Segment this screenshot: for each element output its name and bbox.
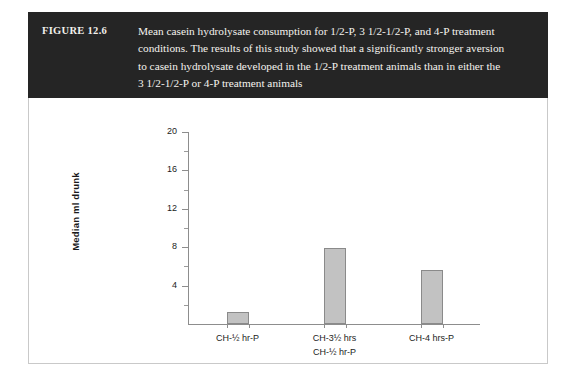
y-tick-major (182, 170, 188, 171)
y-tick-major (182, 209, 188, 210)
y-tick-major (182, 286, 188, 287)
figure-caption-text: Mean casein hydrolysate consumption for … (138, 23, 534, 90)
x-axis-line (188, 324, 480, 325)
x-tick (324, 324, 325, 328)
bar-3 (421, 270, 443, 324)
y-axis-line (188, 132, 189, 324)
figure-container: FIGURE 12.6 Mean casein hydrolysate cons… (28, 12, 548, 364)
y-tick-minor (184, 266, 188, 267)
caption-line-2: conditions. The results of this study sh… (138, 40, 534, 57)
y-tick-label: 12 (137, 203, 177, 213)
x-tick (227, 324, 228, 328)
x-tick (249, 324, 250, 328)
y-axis-title: Median ml drunk (70, 142, 81, 282)
figure-number-label: FIGURE 12.6 (42, 23, 138, 90)
bar-1 (227, 312, 249, 324)
figure-caption-banner: FIGURE 12.6 Mean casein hydrolysate cons… (28, 12, 548, 98)
y-tick-minor (184, 228, 188, 229)
y-tick-label: 16 (137, 164, 177, 174)
x-axis-category-label-3: CH-4 hrs-P (367, 332, 497, 346)
bar-2 (324, 248, 346, 324)
y-tick-minor (184, 190, 188, 191)
y-tick-major (182, 132, 188, 133)
x-tick (443, 324, 444, 328)
x-label-line: CH-½ hr-P (270, 346, 400, 360)
y-tick-label: 4 (137, 280, 177, 290)
y-tick-label: 8 (137, 241, 177, 251)
x-tick (421, 324, 422, 328)
y-tick-major (182, 247, 188, 248)
caption-line-3: to casein hydrolysate developed in the 1… (138, 58, 534, 75)
x-tick (346, 324, 347, 328)
y-tick-minor (184, 305, 188, 306)
y-tick-label: 20 (137, 126, 177, 136)
bar-chart-plot: Median ml drunk 48121620CH-½ hr-PCH-3½ h… (29, 98, 549, 364)
y-tick-minor (184, 151, 188, 152)
chart-frame: Median ml drunk 48121620CH-½ hr-PCH-3½ h… (28, 98, 548, 364)
caption-line-1: Mean casein hydrolysate consumption for … (138, 23, 534, 40)
x-label-line: CH-4 hrs-P (367, 332, 497, 346)
caption-line-4: 3 1/2-1/2-P or 4-P treatment animals (138, 75, 534, 92)
